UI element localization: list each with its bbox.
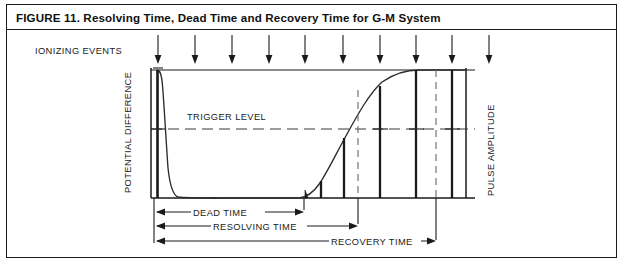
figure-title-bar: FIGURE 11. Resolving Time, Dead Time and…	[7, 5, 616, 30]
pulse-decay-curve	[157, 70, 217, 198]
dimension-recovery-time-label: RECOVERY TIME	[331, 237, 413, 247]
dimension-resolving-time: RESOLVING TIME	[156, 218, 358, 233]
diagram-plot-area: POTENTIAL DIFFERENCE PULSE AMPLITUDE ION…	[7, 30, 618, 257]
ionizing-event-arrow	[449, 35, 456, 64]
dimension-resolving-time-label: RESOLVING TIME	[213, 222, 297, 232]
ionizing-event-arrow-group	[155, 35, 493, 64]
dimension-dead-time: DEAD TIME	[156, 204, 304, 219]
ionizing-event-arrow	[486, 35, 493, 64]
y-axis-left-label: POTENTIAL DIFFERENCE	[123, 72, 133, 193]
ionizing-events-label: IONIZING EVENTS	[35, 46, 122, 56]
gm-system-diagram: POTENTIAL DIFFERENCE PULSE AMPLITUDE ION…	[7, 30, 618, 257]
dimension-recovery-time: RECOVERY TIME	[156, 233, 436, 248]
dimension-dead-time-label: DEAD TIME	[193, 208, 247, 218]
ionizing-event-arrow	[377, 35, 384, 64]
pulse-bar-1	[305, 190, 308, 198]
ionizing-event-arrow	[155, 35, 162, 64]
ionizing-event-arrow	[229, 35, 236, 64]
ionizing-event-arrow	[302, 35, 309, 64]
ionizing-event-arrow	[192, 35, 199, 64]
trigger-level-label: TRIGGER LEVEL	[187, 112, 266, 122]
ionizing-event-arrow	[266, 35, 273, 64]
ionizing-event-arrow	[413, 35, 420, 64]
page-title: FIGURE 11. Resolving Time, Dead Time and…	[7, 11, 441, 24]
figure-frame: FIGURE 11. Resolving Time, Dead Time and…	[6, 4, 617, 258]
pulse-bar-initial	[153, 68, 163, 198]
y-axis-right-label: PULSE AMPLITUDE	[486, 104, 496, 196]
ionizing-event-arrow	[340, 35, 347, 64]
recovery-curve	[299, 70, 466, 198]
